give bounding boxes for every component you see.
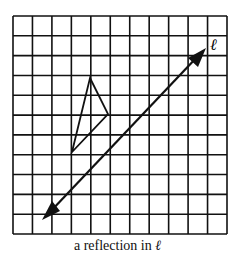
grid xyxy=(13,16,227,234)
line-label: ℓ xyxy=(210,36,217,53)
line-l xyxy=(50,56,198,212)
caption-text: a reflection in xyxy=(74,238,155,253)
caption-line-label: ℓ xyxy=(155,238,161,253)
reflection-diagram: ℓ xyxy=(0,0,235,261)
caption: a reflection in ℓ xyxy=(0,238,235,254)
